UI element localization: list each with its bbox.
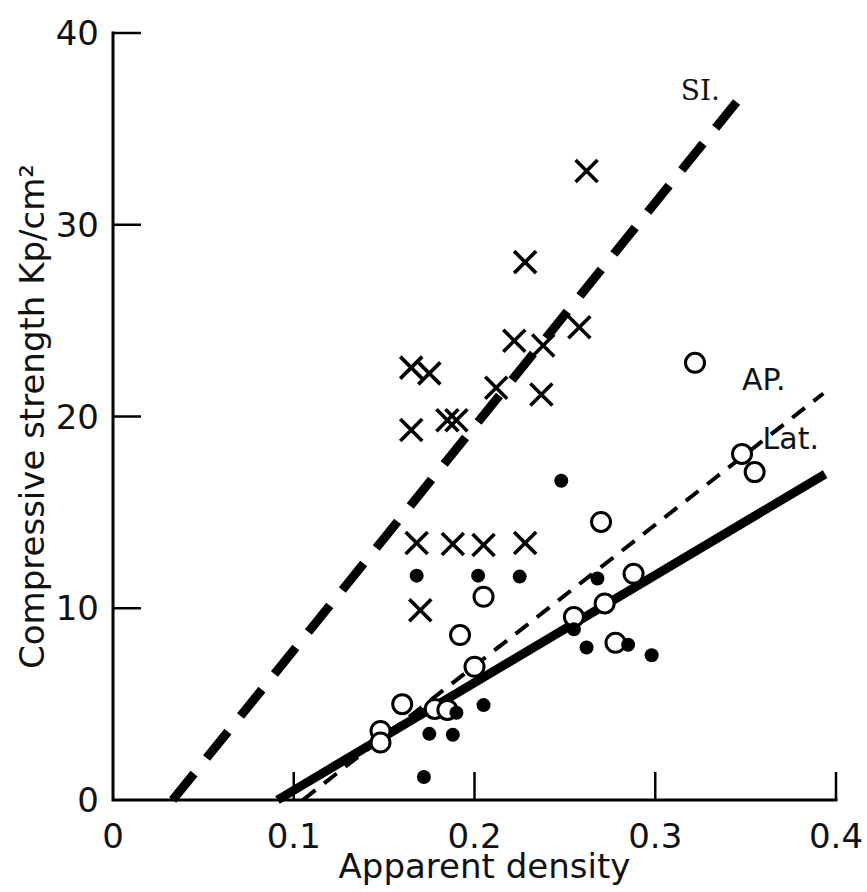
data-point-filled-dot <box>446 728 460 742</box>
data-point-open-circle <box>465 657 484 676</box>
data-point-filled-dot <box>410 569 424 583</box>
data-point-filled-dot <box>471 569 485 583</box>
series-label-si: SI. <box>681 74 720 107</box>
data-point-filled-dot <box>621 638 635 652</box>
data-point-cross <box>473 534 495 556</box>
data-point-cross <box>400 357 422 379</box>
data-point-filled-dot <box>567 622 581 636</box>
data-point-filled-dot <box>590 572 604 586</box>
data-point-open-circle <box>745 463 764 482</box>
x-tick-label-0.4: 0.4 <box>809 816 863 856</box>
y-tick-label-10: 10 <box>56 588 99 628</box>
x-axis-title: Apparent density <box>339 846 631 886</box>
data-points-group <box>371 160 764 784</box>
data-point-cross <box>406 532 428 554</box>
y-axis-title: Compressive strength Kp/cm² <box>12 164 52 669</box>
data-point-filled-dot <box>477 698 491 712</box>
data-point-open-circle <box>592 512 611 531</box>
data-point-cross <box>418 362 440 384</box>
series-label-lat: Lat. <box>763 421 819 456</box>
data-point-open-circle <box>733 444 752 463</box>
y-tick-label-40: 40 <box>56 13 99 53</box>
data-point-open-circle <box>595 594 614 613</box>
data-point-cross <box>400 419 422 441</box>
x-tick-label-0: 0 <box>102 816 124 856</box>
data-point-open-circle <box>451 626 470 645</box>
data-point-open-circle <box>393 695 412 714</box>
x-tick-label-0.1: 0.1 <box>267 816 321 856</box>
data-point-cross <box>514 251 536 273</box>
data-point-open-circle <box>371 733 390 752</box>
data-point-filled-dot <box>580 641 594 655</box>
data-point-filled-dot <box>513 570 527 584</box>
data-point-filled-dot <box>554 474 568 488</box>
data-point-cross <box>409 599 431 621</box>
y-tick-label-20: 20 <box>56 397 99 437</box>
tick-labels-group: 01020304000.10.20.30.4 <box>56 13 863 856</box>
fit-lines-group <box>173 102 826 800</box>
series-labels-group: SI.AP.Lat. <box>681 74 819 456</box>
data-point-filled-dot <box>417 770 431 784</box>
data-point-cross <box>568 316 590 338</box>
data-point-cross <box>503 330 525 352</box>
x-tick-label-0.3: 0.3 <box>628 816 682 856</box>
chart-figure: 01020304000.10.20.30.4 SI.AP.Lat. Appare… <box>0 0 867 892</box>
fit-line-lat <box>277 474 825 800</box>
data-point-filled-dot <box>449 706 463 720</box>
data-point-cross <box>530 383 552 405</box>
y-tick-label-0: 0 <box>77 780 99 820</box>
data-point-filled-dot <box>422 727 436 741</box>
data-point-open-circle <box>474 587 493 606</box>
series-label-ap: AP. <box>742 362 785 397</box>
data-point-filled-dot <box>645 648 659 662</box>
scatter-plot-canvas: 01020304000.10.20.30.4 SI.AP.Lat. Appare… <box>0 0 867 892</box>
data-point-cross <box>514 532 536 554</box>
data-point-cross <box>442 533 464 555</box>
data-point-open-circle <box>624 564 643 583</box>
data-point-open-circle <box>686 353 705 372</box>
data-point-cross <box>576 160 598 182</box>
data-point-cross <box>532 335 554 357</box>
y-tick-label-30: 30 <box>56 205 99 245</box>
